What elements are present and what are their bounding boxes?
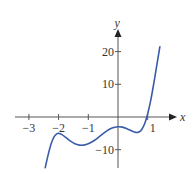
y-axis: y 2010−10 — [95, 16, 121, 168]
y-axis-arrow-icon — [115, 29, 122, 37]
y-tick-label: −10 — [95, 143, 114, 157]
y-tick-label: 10 — [102, 77, 114, 91]
x-axis-arrow-icon — [169, 114, 177, 121]
y-tick-label: 20 — [102, 45, 114, 59]
x-tick-label: −1 — [82, 121, 95, 135]
y-ticks: 2010−10 — [95, 45, 121, 157]
y-axis-label: y — [114, 16, 121, 30]
x-tick-label: −3 — [23, 121, 36, 135]
x-tick-label: 1 — [150, 121, 156, 135]
chart: x −3−2−11 y 2010−10 — [0, 0, 193, 174]
x-axis-label: x — [179, 110, 186, 124]
x-axis: x −3−2−11 — [15, 110, 186, 135]
